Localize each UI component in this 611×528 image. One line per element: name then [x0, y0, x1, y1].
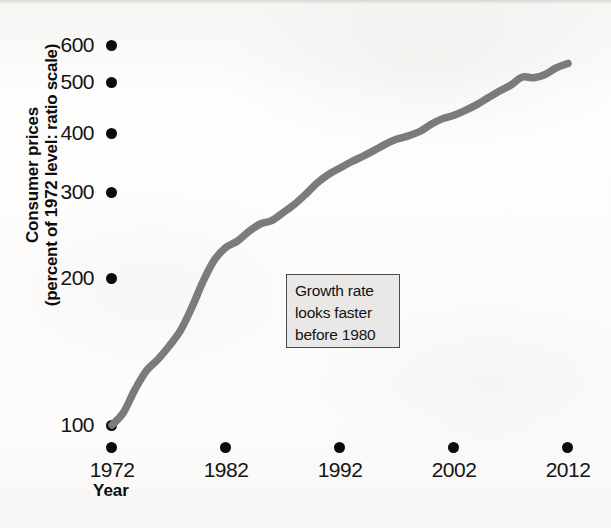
chart-plot-area: [0, 0, 611, 528]
series-line-consumer-prices: [112, 63, 568, 425]
figure-page: Consumer prices (percent of 1972 level: …: [0, 0, 611, 528]
